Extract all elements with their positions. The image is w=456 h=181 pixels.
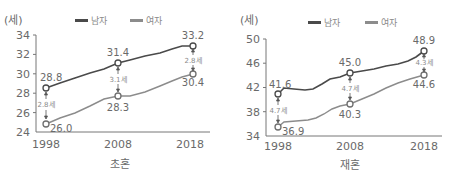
value-label: 28.8 [40,72,62,83]
x-tick-label: 2008 [104,138,132,151]
gap-label: 4.3세 [415,58,432,67]
y-unit-label: (세) [240,14,259,27]
gap-label: 4.7세 [341,84,358,93]
legend-swatch-male [308,21,321,24]
value-label: 41.6 [269,79,291,90]
legend-swatch-male [75,19,88,22]
data-point-female [347,101,353,107]
chart-remarriage: (세) 남자 여자 50 46 42 38 34 1998 2008 2018 [240,14,442,172]
data-point-male [347,70,353,76]
y-ticks: 34 32 30 28 26 24 [16,29,36,139]
value-label: 33.2 [182,30,204,41]
y-tick-label: 34 [16,29,30,42]
y-tick-label: 34 [246,130,260,143]
gap-label: 3.1세 [109,75,126,84]
data-point-male [115,60,121,66]
data-point-female [43,121,49,127]
value-label: 28.3 [107,102,129,113]
y-tick-label: 42 [246,81,260,94]
y-tick-label: 30 [16,68,30,81]
gap-label: 2.8세 [184,56,201,65]
value-label: 44.6 [413,79,435,90]
chart-first-marriage: (세) 남자 여자 34 32 30 28 26 24 1998 2008 [4,14,210,171]
x-tick-label: 2008 [336,140,364,153]
legend-swatch-female [130,19,143,22]
value-label: 45.0 [339,57,361,68]
y-tick-label: 38 [246,106,260,119]
value-label: 40.3 [339,109,361,120]
gap-label: 2.8세 [37,100,54,109]
data-point-female [275,124,281,130]
x-tick-label: 2018 [410,140,438,153]
chart-title: 초혼 [110,158,130,171]
data-point-female [421,72,427,78]
y-tick-label: 28 [16,87,30,100]
value-label: 31.4 [107,47,129,58]
legend: 남자 여자 [308,17,398,28]
legend: 남자 여자 [75,15,163,26]
x-tick-label: 2018 [176,138,204,151]
x-tick-label: 1998 [264,140,292,153]
y-tick-label: 26 [16,107,30,120]
data-point-male [275,91,281,97]
y-unit-label: (세) [4,14,23,27]
data-point-male [43,85,49,91]
y-tick-label: 32 [16,48,30,61]
data-point-male [190,43,196,49]
data-point-female [115,93,121,99]
value-label: 30.4 [182,77,204,88]
gap-label: 4.7세 [269,106,286,115]
value-label: 48.9 [413,35,435,46]
legend-label-male: 남자 [91,16,108,26]
legend-label-female: 여자 [381,17,398,28]
legend-label-female: 여자 [146,15,163,26]
y-tick-label: 46 [246,57,260,70]
value-label: 26.0 [50,123,72,134]
data-point-male [421,48,427,54]
marriage-age-charts: (세) 남자 여자 34 32 30 28 26 24 1998 2008 [0,0,456,181]
y-tick-label: 50 [246,33,260,46]
value-label: 36.9 [282,126,304,137]
y-ticks: 50 46 42 38 34 [246,33,266,143]
y-tick-label: 24 [16,126,30,139]
legend-swatch-female [365,21,378,24]
chart-title: 재혼 [340,159,360,172]
x-tick-label: 1998 [32,138,60,151]
legend-label-male: 남자 [324,18,341,28]
